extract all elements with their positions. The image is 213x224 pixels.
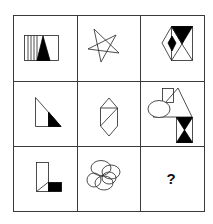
cell-2-3-figure (148, 88, 193, 143)
question-mark: ? (166, 170, 175, 187)
cell-3-2-figure (87, 161, 120, 191)
cell-2-1-figure (36, 98, 62, 127)
cell-1-1-figure (25, 36, 59, 61)
cell-3-1-figure (37, 163, 62, 192)
cell-1-3-figure (162, 27, 193, 61)
cell-2-2-figure (101, 98, 118, 136)
puzzle-grid: ? (0, 0, 213, 224)
cell-1-2-figure (87, 28, 119, 62)
cell-3-3-answer: ? (166, 170, 175, 187)
